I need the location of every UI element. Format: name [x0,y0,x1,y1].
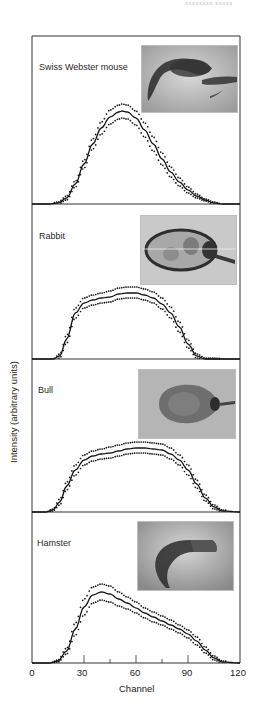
upper-envelope-dot [114,288,116,290]
upper-envelope-dot [58,353,60,355]
upper-envelope-dot [106,447,108,449]
upper-envelope-dot [179,624,181,626]
upper-envelope-dot [216,202,218,204]
upper-envelope-dot [147,441,149,443]
lower-envelope-dot [199,491,201,493]
upper-envelope-dot [158,443,160,445]
lower-envelope-dot [101,302,103,304]
upper-envelope-dot [197,636,199,638]
lower-envelope-dot [56,661,58,663]
upper-envelope-dot [93,450,95,452]
upper-envelope-dot [199,195,201,197]
upper-envelope-dot [65,648,67,650]
upper-envelope-dot [186,464,188,466]
lower-envelope-dot [208,201,210,203]
lower-envelope-dot [192,354,194,356]
upper-envelope-dot [114,445,116,447]
upper-envelope-dot [173,310,175,312]
lower-envelope-dot [162,454,164,456]
upper-envelope-dot [65,195,67,197]
upper-envelope-dot [112,108,114,110]
upper-envelope-dot [169,165,171,167]
upper-envelope-dot [117,287,119,289]
lower-envelope-dot [88,606,90,608]
upper-envelope-dot [160,443,162,445]
upper-envelope-dot [205,357,207,359]
upper-envelope-dot [190,343,192,345]
lower-envelope-dot [86,463,88,465]
upper-envelope-dot [151,611,153,613]
upper-envelope-dot [86,296,88,298]
lower-envelope-dot [186,346,188,348]
lower-envelope-dot [210,657,212,659]
lower-envelope-dot [138,298,140,300]
micrograph-mouse [141,45,238,113]
lower-envelope-dot [173,629,175,631]
upper-envelope-dot [101,121,103,123]
lower-envelope-dot [130,297,132,299]
lower-envelope-dot [218,661,220,663]
upper-envelope-dot [162,443,164,445]
upper-envelope-dot [88,452,90,454]
upper-envelope-dot [67,481,69,483]
upper-envelope-dot [173,621,175,623]
lower-envelope-dot [110,457,112,459]
upper-envelope-dot [88,295,90,297]
lower-envelope-dot [201,649,203,651]
upper-envelope-dot [151,442,153,444]
upper-envelope-dot [195,352,197,354]
lower-envelope-dot [166,457,168,459]
lower-envelope-dot [147,140,149,142]
upper-envelope-dot [78,461,80,463]
lower-envelope-dot [88,155,90,157]
lower-envelope-dot [65,490,67,492]
upper-envelope-dot [147,608,149,610]
upper-envelope-dot [101,292,103,294]
upper-envelope-dot [82,599,84,601]
lower-envelope-dot [179,632,181,634]
lower-envelope-dot [91,603,93,605]
lower-envelope-dot [162,624,164,626]
x-tick-30: 30 [77,667,88,678]
lower-envelope-dot [214,659,216,661]
upper-envelope-dot [214,357,216,359]
lower-envelope-dot [184,635,186,637]
upper-envelope-dot [67,333,69,335]
upper-envelope-dot [104,448,106,450]
lower-envelope-dot [52,510,54,512]
lower-envelope-dot [138,614,140,616]
upper-envelope-dot [160,297,162,299]
upper-envelope-dot [80,301,82,303]
upper-envelope-dot [199,354,201,356]
lower-envelope-dot [78,471,80,473]
lower-envelope-dot [69,485,71,487]
upper-envelope-dot [214,504,216,506]
lower-envelope-dot [195,357,197,359]
lower-envelope-dot [78,629,80,631]
lower-envelope-dot [114,299,116,301]
lower-envelope-dot [58,504,60,506]
lower-envelope-dot [99,458,101,460]
lower-envelope-dot [80,621,82,623]
upper-envelope-dot [190,468,192,470]
lower-envelope-dot [62,497,64,499]
lower-envelope-dot [208,502,210,504]
lower-envelope-dot [208,654,210,656]
upper-envelope-dot [82,160,84,162]
upper-envelope-dot [134,110,136,112]
upper-envelope-dot [173,449,175,451]
panel-label-bull: Bull [38,385,53,395]
lower-envelope-dot [67,653,69,655]
lower-envelope-dot [205,500,207,502]
upper-envelope-dot [62,490,64,492]
lower-envelope-dot [104,130,106,132]
upper-envelope-dot [177,624,179,626]
upper-envelope-dot [143,288,145,290]
upper-envelope-dot [125,442,127,444]
upper-envelope-dot [54,507,56,509]
lower-envelope-dot [151,302,153,304]
upper-envelope-dot [117,444,119,446]
upper-envelope-dot [117,104,119,106]
lower-envelope-dot [203,200,205,202]
lower-envelope-dot [75,186,77,188]
